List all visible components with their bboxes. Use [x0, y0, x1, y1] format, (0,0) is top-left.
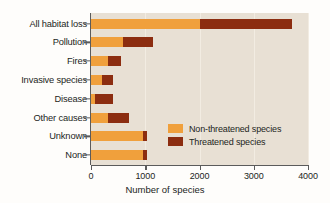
- stacked-bar: [91, 75, 113, 85]
- bar-segment-threatened: [102, 75, 113, 85]
- category-label: Invasive species: [21, 75, 87, 85]
- chart-figure: All habitat lossPollutionFiresInvasive s…: [0, 0, 330, 203]
- y-axis-tick: [84, 154, 90, 155]
- bar-segment-non-threatened: [91, 75, 102, 85]
- x-axis-title: Number of species: [0, 184, 330, 195]
- category-label: Unknown: [49, 131, 87, 141]
- x-axis-tick: [254, 165, 255, 170]
- y-axis-tick: [84, 136, 90, 137]
- x-axis-tick-label: 2000: [190, 171, 210, 181]
- x-axis-tick-label: 1000: [135, 171, 155, 181]
- bar-segment-threatened: [95, 94, 113, 104]
- legend-item-non-threatened: Non-threatened species: [168, 122, 296, 135]
- bar-row: Disease: [0, 89, 330, 108]
- bar-segment-threatened: [143, 131, 147, 141]
- legend-swatch-non-threatened: [168, 124, 183, 133]
- category-label: Pollution: [53, 37, 87, 47]
- legend-label-non-threatened: Non-threatened species: [189, 124, 281, 134]
- bar-row: Fires: [0, 52, 330, 71]
- y-axis-tick: [84, 23, 90, 24]
- bar-row: None: [0, 146, 330, 165]
- category-label: All habitat loss: [29, 19, 87, 29]
- x-axis-tick: [91, 165, 92, 170]
- category-label: Other causes: [34, 113, 88, 123]
- legend-item-threatened: Threatened species: [168, 135, 296, 148]
- stacked-bar: [91, 113, 129, 123]
- x-axis-tick-label: 0: [89, 171, 94, 181]
- bar-segment-non-threatened: [91, 56, 108, 66]
- bar-segment-threatened: [143, 150, 147, 160]
- bar-segment-threatened: [108, 56, 121, 66]
- chart-legend: Non-threatened species Threatened specie…: [168, 122, 296, 148]
- bar-segment-non-threatened: [91, 131, 143, 141]
- bar-segment-non-threatened: [91, 19, 200, 29]
- category-label: Disease: [54, 94, 87, 104]
- bar-segment-non-threatened: [91, 113, 108, 123]
- legend-swatch-threatened: [168, 137, 183, 146]
- bar-segment-non-threatened: [91, 37, 123, 47]
- legend-label-threatened: Threatened species: [189, 137, 265, 147]
- y-axis-tick: [84, 42, 90, 43]
- y-axis-tick: [84, 98, 90, 99]
- stacked-bar: [91, 131, 147, 141]
- bar-segment-threatened: [200, 19, 292, 29]
- bar-segment-threatened: [123, 37, 153, 47]
- stacked-bar: [91, 37, 153, 47]
- stacked-bar: [91, 56, 121, 66]
- stacked-bar: [91, 150, 147, 160]
- y-axis-tick: [84, 60, 90, 61]
- stacked-bar: [91, 19, 292, 29]
- bar-row: All habitat loss: [0, 14, 330, 33]
- x-axis-tick-label: 3000: [244, 171, 264, 181]
- y-axis-tick: [84, 79, 90, 80]
- x-axis-tick: [308, 165, 309, 170]
- y-axis-tick: [84, 117, 90, 118]
- stacked-bar: [91, 94, 113, 104]
- x-axis-tick-label: 4000: [298, 171, 318, 181]
- bar-segment-non-threatened: [91, 150, 143, 160]
- bar-row: Pollution: [0, 33, 330, 52]
- x-axis-tick: [200, 165, 201, 170]
- bar-row: Invasive species: [0, 70, 330, 89]
- x-axis-tick: [145, 165, 146, 170]
- bar-segment-threatened: [108, 113, 129, 123]
